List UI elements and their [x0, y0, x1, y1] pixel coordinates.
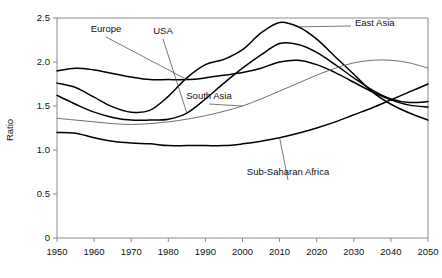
x-tick-label: 2050: [417, 246, 438, 257]
x-tick-label: 2020: [306, 246, 327, 257]
x-tick-label: 2010: [269, 246, 290, 257]
x-tick-label: 1950: [46, 246, 67, 257]
y-tick-label: 0.5: [37, 188, 50, 199]
x-tick-label: 2000: [232, 246, 253, 257]
chart-container: 00.51.01.52.02.5 19501960197019801990200…: [0, 0, 442, 278]
series-label-europe: Europe: [91, 23, 122, 34]
chart-background: [0, 0, 442, 278]
y-tick-label: 2.5: [37, 12, 50, 23]
y-tick-label: 1.0: [37, 144, 50, 155]
series-label-east-asia: East Asia: [355, 17, 395, 28]
ratio-line-chart: 00.51.01.52.02.5 19501960197019801990200…: [0, 0, 442, 278]
x-tick-label: 1990: [195, 246, 216, 257]
x-tick-label: 2040: [380, 246, 401, 257]
y-axis-title: Ratio: [4, 119, 15, 141]
y-tick-label: 0: [45, 232, 50, 243]
x-tick-label: 1980: [158, 246, 179, 257]
y-tick-label: 1.5: [37, 100, 50, 111]
x-tick-label: 1970: [121, 246, 142, 257]
x-tick-label: 1960: [84, 246, 105, 257]
series-label-usa: USA: [153, 25, 173, 36]
x-tick-label: 2030: [343, 246, 364, 257]
y-tick-label: 2.0: [37, 56, 50, 67]
series-label-south-asia: South Asia: [186, 90, 232, 101]
series-label-sub-saharan-africa: Sub-Saharan Africa: [247, 166, 330, 177]
